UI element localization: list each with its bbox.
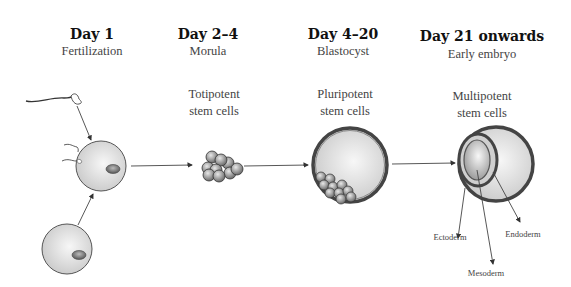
morula-icon (202, 151, 243, 182)
arrow-to-morula (131, 165, 192, 166)
early-embryo-icon (459, 127, 533, 201)
embryo-diagram (0, 0, 571, 287)
blastocyst-icon (313, 128, 387, 204)
zygote-icon (62, 141, 126, 191)
egg-cell-icon (42, 224, 92, 274)
sperm-arrow (77, 106, 91, 140)
egg-arrow (78, 194, 93, 225)
arrow-to-embryo (392, 163, 455, 164)
arrow-to-blastocyst (244, 165, 308, 166)
ectoderm-arrow (458, 188, 465, 238)
sperm-icon (26, 94, 81, 104)
